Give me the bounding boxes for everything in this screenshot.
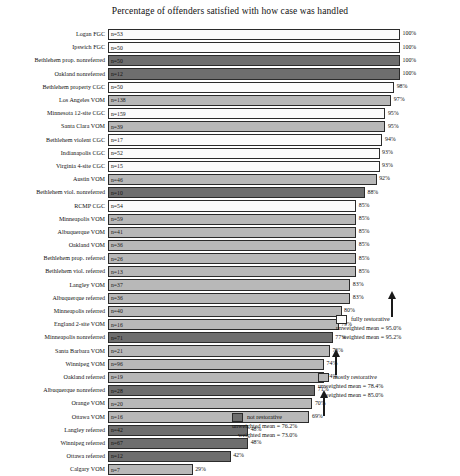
bar-sample-size-label: n=71 (109, 335, 123, 341)
bar-track: n=1088% (108, 186, 460, 199)
bar-value-label: 97% (391, 96, 404, 103)
bar-not: n=42 (108, 425, 248, 436)
bar-track: n=12100% (108, 68, 460, 81)
bar-track: n=1794% (108, 134, 460, 147)
bar-not: n=12 (108, 451, 231, 462)
bar-category-label: Albuquerque nonreferred (0, 387, 108, 394)
bar-track: n=5098% (108, 81, 460, 94)
bar-value-label: 83% (350, 281, 363, 288)
bar-track: n=13897% (108, 94, 460, 107)
chart-bar-row: Oakland referredn=1974% (0, 371, 460, 384)
bar-full: n=54 (108, 200, 356, 211)
chart-bar-row: Winnipeg referredn=6748% (0, 437, 460, 450)
bar-track: n=53100% (108, 28, 460, 41)
chart-bar-row: RCMP CGCn=5485% (0, 199, 460, 212)
bar-sample-size-label: n=36 (109, 242, 123, 248)
chart-bar-row: Indianapolis CGCn=5293% (0, 147, 460, 160)
bar-mostly: n=16 (108, 319, 339, 330)
bar-value-label: 94% (382, 136, 395, 143)
bar-mostly: n=7 (108, 464, 193, 475)
chart-bar-row: Bethlehem property CGCn=5098% (0, 81, 460, 94)
bar-mostly: n=19 (108, 372, 324, 383)
chart-bar-row: Albuquerque nonreferredn=2871% (0, 384, 460, 397)
bar-track: n=1974% (108, 371, 460, 384)
bar-category-label: RCMP CGC (0, 203, 108, 210)
bar-not: n=50 (108, 55, 400, 66)
bar-value-label: 42% (231, 452, 244, 459)
bar-track: n=50100% (108, 54, 460, 67)
bar-track: n=4185% (108, 226, 460, 239)
bar-full: n=15 (108, 161, 380, 172)
bar-value-label: 100% (400, 44, 416, 51)
legend-fully-label: fully restorative (351, 315, 390, 324)
bar-category-label: Albuquerque VOM (0, 229, 108, 236)
bar-sample-size-label: n=39 (109, 124, 123, 130)
bar-category-label: Calgary VOM (0, 466, 108, 473)
bar-sample-size-label: n=12 (109, 453, 123, 459)
bar-sample-size-label: n=7 (109, 467, 120, 473)
bar-track: n=3683% (108, 292, 460, 305)
bar-not: n=71 (108, 332, 333, 343)
bar-sample-size-label: n=19 (109, 374, 123, 380)
chart-bar-row: Virginia 4-site CGCn=1593% (0, 160, 460, 173)
bar-category-label: Santa Clara VOM (0, 123, 108, 130)
bar-sample-size-label: n=159 (109, 111, 126, 117)
bar-category-label: Orange VOM (0, 400, 108, 407)
chart-bar-row: Bethlehem prop. nonreferredn=50100% (0, 54, 460, 67)
chart-bar-row: Orange VOMn=2070% (0, 397, 460, 410)
chart-bar-row: Logan FGCn=53100% (0, 28, 460, 41)
bar-category-label: Austin VOM (0, 176, 108, 183)
bar-sample-size-label: n=59 (109, 216, 123, 222)
page-title: Percentage of offenders satisfied with h… (0, 6, 460, 16)
chart-bar-row: Ottawa referredn=1242% (0, 450, 460, 463)
bar-sample-size-label: n=53 (109, 31, 123, 37)
legend-not-weighted-mean: weighted mean = 73.0% (232, 431, 298, 440)
bar-value-label: 98% (394, 83, 407, 90)
bar-sample-size-label: n=50 (109, 84, 123, 90)
bar-category-label: Winnipeg referred (0, 440, 108, 447)
chart-bar-row: Bethlehem viol. nonreferredn=1088% (0, 186, 460, 199)
bar-sample-size-label: n=20 (109, 401, 123, 407)
bar-track: n=3783% (108, 279, 460, 292)
legend-fully-restorative: fully restorative unweighted mean = 95.0… (336, 315, 402, 342)
bar-category-label: Albuquerque referred (0, 295, 108, 302)
bar-track: n=2685% (108, 252, 460, 265)
bar-sample-size-label: n=52 (109, 150, 123, 156)
bar-category-label: Winnipeg VOM (0, 361, 108, 368)
chart-bar-row: Albuquerque VOMn=4185% (0, 226, 460, 239)
chart-bar-row: Oakland nonreferredn=12100% (0, 68, 460, 81)
bar-track: n=15995% (108, 107, 460, 120)
chart-bar-row: Calgary VOMn=729% (0, 463, 460, 476)
bar-sample-size-label: n=16 (109, 414, 123, 420)
chart-bar-row: Bethlehem prop. referredn=2685% (0, 252, 460, 265)
bar-category-label: England 2-site VOM (0, 321, 108, 328)
bar-category-label: Bethlehem viol. referred (0, 268, 108, 275)
bar-track: n=3685% (108, 239, 460, 252)
bar-track: n=3995% (108, 120, 460, 133)
bar-mostly: n=36 (108, 293, 350, 304)
bar-sample-size-label: n=96 (109, 361, 123, 367)
bar-sample-size-label: n=12 (109, 71, 123, 77)
bar-mostly: n=96 (108, 359, 324, 370)
chart-bar-row: Oakland VOMn=3685% (0, 239, 460, 252)
bar-mostly: n=59 (108, 214, 356, 225)
legend-swatch-mostly-icon (318, 373, 329, 382)
bar-track: n=2871% (108, 384, 460, 397)
bar-category-label: Ottawa referred (0, 453, 108, 460)
bar-track: n=5985% (108, 213, 460, 226)
chart-bar-row: Ottawa VOMn=1669% (0, 410, 460, 423)
bar-sample-size-label: n=13 (109, 269, 123, 275)
bar-sample-size-label: n=21 (109, 348, 123, 354)
bar-category-label: Oakland VOM (0, 242, 108, 249)
bar-mostly: n=40 (108, 306, 342, 317)
bar-value-label: 85% (356, 241, 369, 248)
legend-not-unweighted-mean: unweighted mean = 76.2% (232, 422, 298, 431)
bar-value-label: 85% (356, 228, 369, 235)
bar-full: n=50 (108, 82, 394, 93)
chart-bar-row: Langley referredn=4248% (0, 424, 460, 437)
bar-value-label: 88% (365, 189, 378, 196)
bar-category-label: Oakland referred (0, 374, 108, 381)
bar-sample-size-label: n=15 (109, 163, 123, 169)
chart-bar-row: Los Angeles VOMn=13897% (0, 94, 460, 107)
bar-category-label: Minnesota 12-site CGC (0, 110, 108, 117)
